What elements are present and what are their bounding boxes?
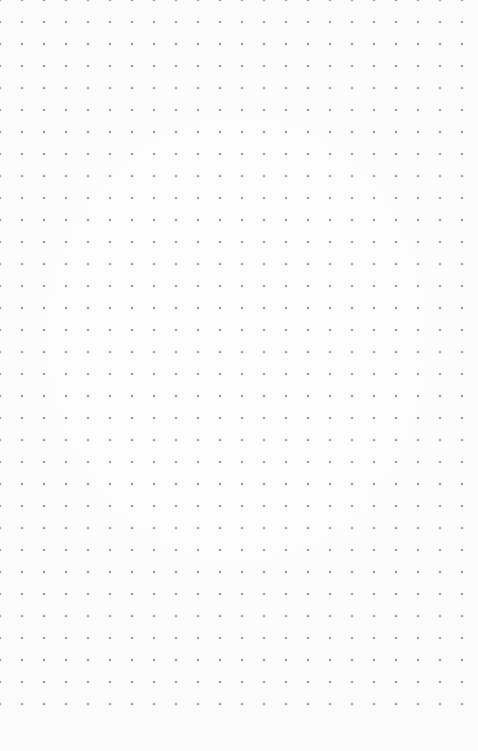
dot-grid: [0, 0, 478, 751]
dot-grid-page: [0, 0, 478, 751]
